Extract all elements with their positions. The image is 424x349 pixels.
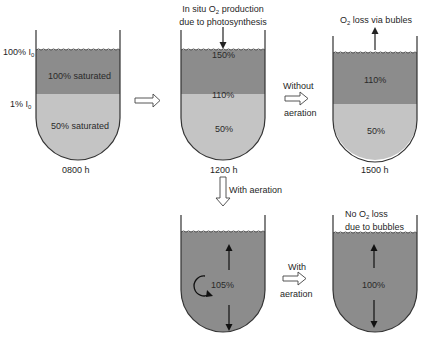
with-aeration-label-top: With (288, 262, 306, 272)
time-label-1200: 1200 h (210, 165, 238, 175)
with-aeration-label: With aeration (229, 185, 282, 195)
time-label-1500: 1500 h (361, 165, 389, 175)
tank-aerated (181, 215, 265, 342)
tank-final (333, 215, 417, 343)
with-aeration-label-bottom: aeration (280, 289, 313, 299)
down-arrow-icon (220, 42, 227, 49)
hollow-right-arrow-icon (283, 272, 306, 285)
time-label-0800: 0800 h (62, 165, 90, 175)
layer-label-lower: 50% saturated (51, 121, 109, 131)
level-label-1: 1% I0 (10, 99, 31, 112)
tank-0800 (36, 30, 120, 174)
hollow-right-arrow-icon (135, 94, 160, 107)
no-loss-annotation: No O2 loss due to bubbles (345, 209, 404, 232)
hollow-right-arrow-icon (285, 92, 308, 105)
value-final: 100% (362, 280, 385, 290)
photosynthesis-annotation: In situ O2 production due to photosynthe… (168, 4, 278, 27)
layer-label-upper: 100% saturated (48, 71, 111, 81)
value-aerated: 105% (211, 280, 234, 290)
tank-1500 (333, 27, 417, 174)
level-label-100: 100% I0 (3, 47, 34, 60)
without-aeration-label-top: Without (283, 81, 314, 91)
value-lower: 50% (367, 126, 385, 136)
value-surface: 150% (212, 50, 235, 60)
value-upper: 110% (212, 90, 234, 100)
hollow-down-arrow-icon (216, 177, 230, 206)
without-aeration-label-bottom: aeration (284, 108, 317, 118)
value-lower: 50% (215, 124, 233, 134)
bubble-loss-annotation: O2 loss via bubles (340, 15, 412, 28)
up-arrow-icon (372, 27, 379, 34)
value-upper: 110% (364, 75, 386, 85)
